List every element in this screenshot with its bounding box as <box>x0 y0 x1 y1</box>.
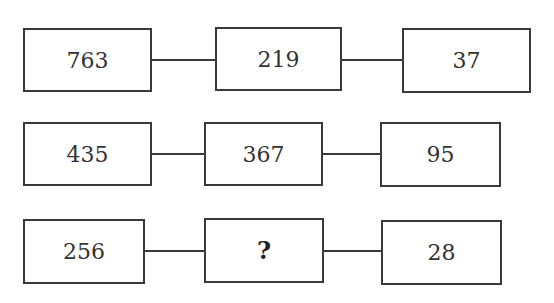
row1-middle-box: 219 <box>215 27 342 91</box>
row3-connector-right <box>324 250 381 252</box>
row3-right-value: 28 <box>428 240 456 265</box>
row2-middle-box: 367 <box>204 122 323 186</box>
row1-right-box: 37 <box>402 28 531 93</box>
row2-right-value: 95 <box>427 142 455 167</box>
row2-middle-value: 367 <box>243 142 285 167</box>
row2-connector-right <box>323 153 380 155</box>
row3-connector-left <box>145 250 204 252</box>
row3-left-box: 256 <box>23 219 145 284</box>
row1-left-box: 763 <box>23 28 152 92</box>
row2-left-box: 435 <box>23 122 152 186</box>
row1-right-value: 37 <box>453 48 481 73</box>
row1-connector-left <box>152 59 215 61</box>
row1-left-value: 763 <box>67 48 109 73</box>
row2-left-value: 435 <box>67 142 109 167</box>
question-mark: ? <box>257 236 271 265</box>
row3-left-value: 256 <box>63 239 105 264</box>
row1-connector-right <box>342 59 402 61</box>
row2-right-box: 95 <box>380 122 501 187</box>
row1-middle-value: 219 <box>258 47 300 72</box>
row3-middle-unknown-box: ? <box>204 218 324 283</box>
row3-right-box: 28 <box>381 220 502 285</box>
